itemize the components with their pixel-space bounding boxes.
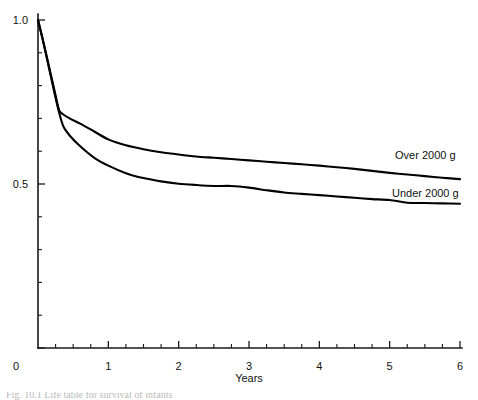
x-axis: 123456: [38, 341, 463, 372]
x-tick-label-1: 1: [105, 360, 111, 372]
figure-container: 00.51.0 123456 Years Over 2000 g Under 2…: [0, 0, 478, 400]
curve-series-group: [38, 20, 460, 204]
figure-caption: Fig. 10.1 Life table for survival of inf…: [6, 392, 172, 400]
x-axis-title: Years: [235, 372, 263, 384]
y-tick-label-1.0: 1.0: [13, 14, 28, 26]
x-tick-label-6: 6: [457, 360, 463, 372]
series-label-under-2000g: Under 2000 g: [392, 187, 459, 199]
y-tick-label-0.5: 0.5: [13, 178, 28, 190]
figure-caption-strip: Fig. 10.1 Life table for survival of inf…: [0, 392, 478, 400]
y-tick-label-0: 0: [13, 360, 19, 372]
x-tick-label-3: 3: [246, 360, 252, 372]
survival-curve-chart: 00.51.0 123456 Years Over 2000 g Under 2…: [0, 0, 478, 400]
x-tick-label-2: 2: [176, 360, 182, 372]
series-label-over-2000g: Over 2000 g: [395, 149, 456, 161]
x-tick-label-4: 4: [316, 360, 322, 372]
y-axis: 00.51.0: [13, 14, 45, 372]
x-tick-label-5: 5: [387, 360, 393, 372]
curve-under-2000-g: [38, 20, 460, 204]
